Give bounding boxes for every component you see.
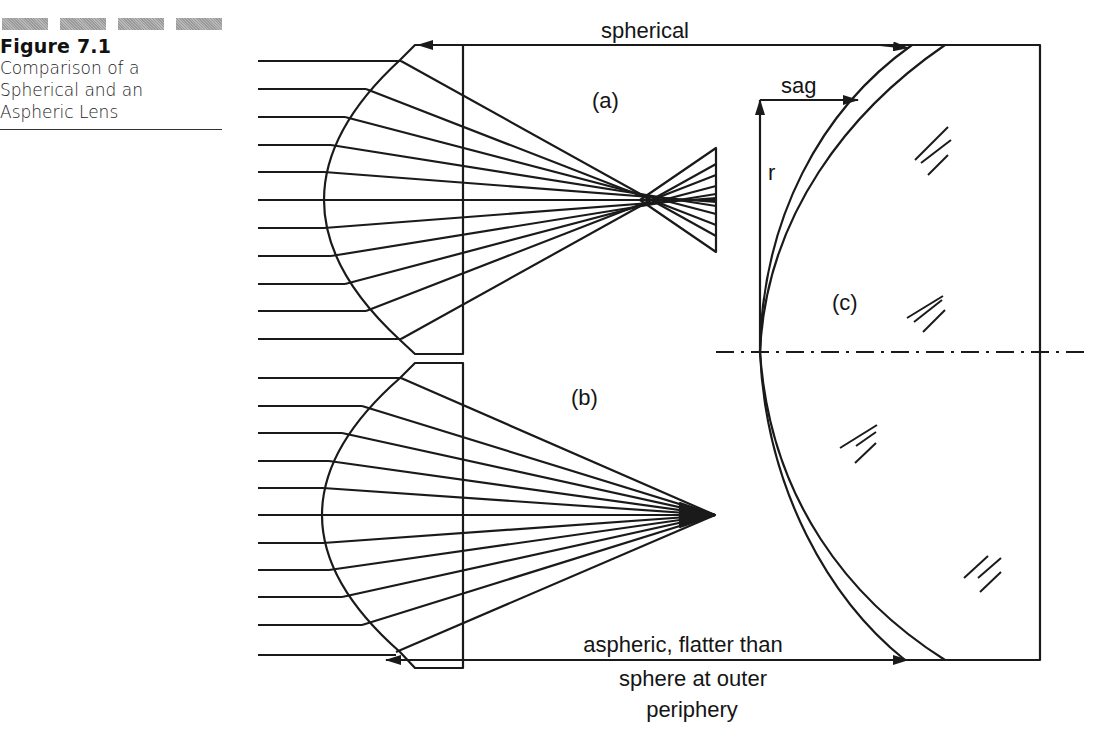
label-aspheric-line2: sphere at outer <box>619 666 767 691</box>
aspheric-surface-curve-lower <box>760 352 945 660</box>
lens-a-spherical <box>258 45 716 354</box>
part-c-sag-comparison <box>716 45 1090 660</box>
lens-b-refracted-rays <box>321 378 715 652</box>
label-part-a: (a) <box>592 88 619 113</box>
lens-b-incoming-rays <box>258 378 401 655</box>
label-aspheric-line3: periphery <box>646 697 738 722</box>
label-aspheric-line1: aspheric, flatter than <box>583 632 782 657</box>
hatch-mark <box>964 556 1001 592</box>
hatch-mark <box>915 127 951 175</box>
label-part-c: (c) <box>832 290 858 315</box>
label-r: r <box>768 160 775 185</box>
glass-hatch-marks <box>840 127 1001 592</box>
lens-diagram: spherical (a) (b) (c) sag r aspheric, fl… <box>0 0 1116 754</box>
hatch-mark <box>907 296 945 332</box>
label-sag: sag <box>781 73 816 98</box>
label-spherical: spherical <box>601 18 689 43</box>
label-part-b: (b) <box>571 385 598 410</box>
hatch-mark <box>840 425 877 463</box>
lens-a-refracted-rays <box>322 61 716 339</box>
lens-b-aspheric <box>258 363 715 668</box>
